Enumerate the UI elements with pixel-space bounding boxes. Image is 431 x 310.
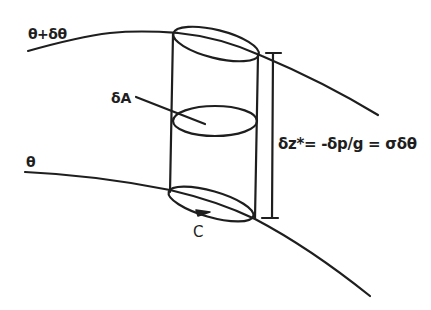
middle-ellipse-area: [173, 106, 257, 136]
top-ellipse: [170, 20, 262, 68]
diagram-canvas: θ+δθ θ δA δz*= -δp/g = σδθ C: [0, 0, 431, 310]
circuit-arrow-icon: [196, 210, 210, 216]
circuit-label: C: [193, 225, 203, 240]
thickness-bracket-line: [272, 53, 273, 218]
thickness-equation-label: δz*= -δp/g = σδθ: [278, 137, 417, 152]
cylinder-right-side: [255, 55, 258, 218]
area-label: δA: [111, 91, 131, 105]
upper-surface-label: θ+δθ: [28, 27, 67, 41]
bottom-ellipse-circuit: [165, 179, 257, 228]
lower-surface-label: θ: [26, 155, 36, 169]
diagram-drawing: [0, 0, 431, 310]
upper-isentrope-curve: [28, 31, 378, 115]
cylinder-left-side: [170, 34, 173, 192]
